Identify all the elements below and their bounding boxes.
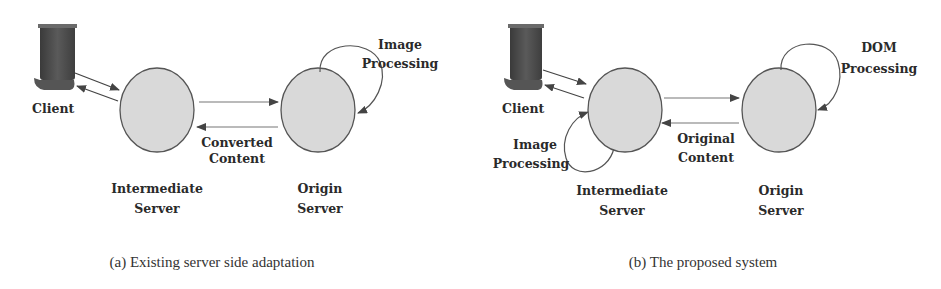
intermediate-loop-label-line2: Processing	[493, 156, 570, 171]
edge-label-line2: Content	[678, 150, 734, 165]
panel-a: Client Converted Content Image Processin…	[32, 24, 439, 271]
edge-label-line2: Content	[209, 151, 265, 166]
origin-label-line2: Server	[297, 201, 343, 216]
intermediate-server-node	[120, 68, 194, 152]
origin-label-line1: Origin	[759, 183, 804, 198]
intermediate-label-line1: Intermediate	[576, 183, 668, 198]
response-arrow	[545, 85, 584, 98]
client-label: Client	[502, 101, 544, 116]
origin-server-node	[742, 68, 816, 152]
origin-server-node	[281, 68, 355, 152]
caption-a: (a) Existing server side adaptation	[110, 254, 315, 271]
origin-loop-label-line2: Processing	[841, 61, 918, 76]
panel-b: Client Original Content Image Processing…	[493, 24, 918, 271]
origin-loop-label-line1: DOM	[861, 40, 897, 55]
client-device-icon	[504, 24, 544, 90]
edge-label-line1: Converted	[201, 135, 273, 150]
edge-label-line1: Original	[677, 131, 735, 146]
intermediate-label-line2: Server	[599, 203, 645, 218]
loop-label-line2: Processing	[362, 56, 439, 71]
origin-label-line1: Origin	[298, 181, 343, 196]
loop-label-line1: Image	[378, 37, 422, 52]
intermediate-label-line2: Server	[134, 201, 180, 216]
origin-label-line2: Server	[758, 203, 804, 218]
intermediate-loop-label-line1: Image	[513, 137, 557, 152]
intermediate-label-line1: Intermediate	[111, 181, 203, 196]
caption-b: (b) The proposed system	[629, 254, 778, 271]
intermediate-server-node	[588, 68, 662, 152]
client-label: Client	[32, 101, 74, 116]
request-arrow	[543, 70, 586, 84]
diagram-canvas: Client Converted Content Image Processin…	[0, 0, 941, 289]
response-arrow	[77, 86, 118, 101]
client-device-icon	[34, 24, 77, 90]
